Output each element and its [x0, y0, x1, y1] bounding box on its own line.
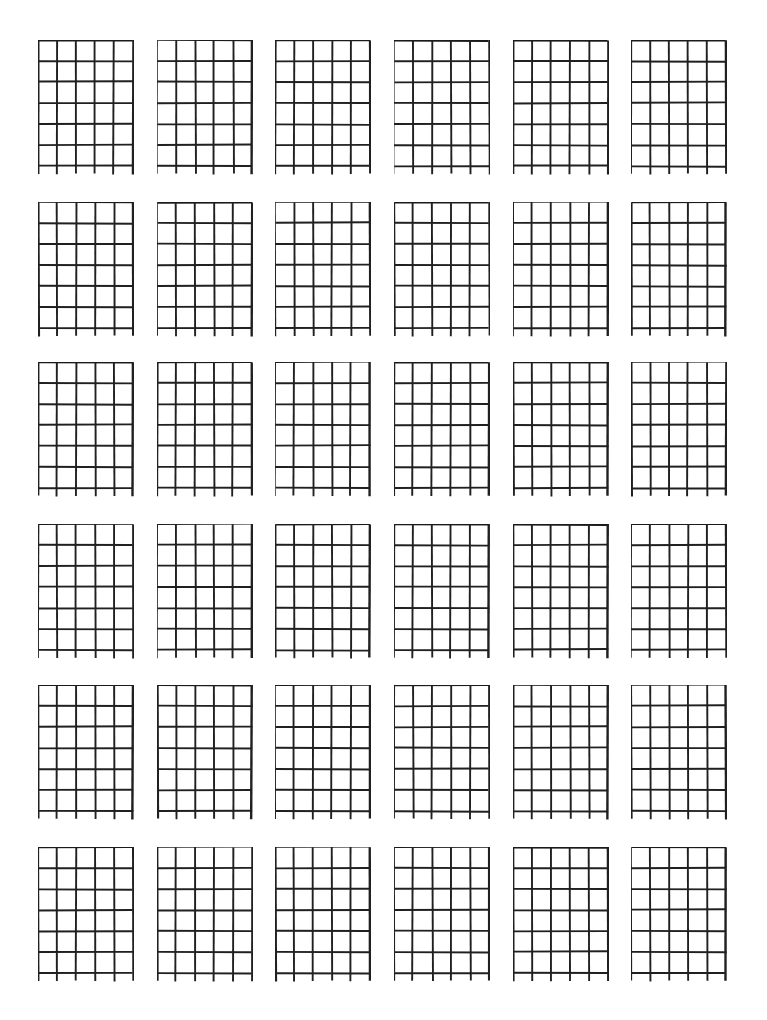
chord-diagram-canvas — [394, 685, 490, 831]
chord-diagram[interactable] — [631, 202, 727, 348]
string-line — [650, 685, 651, 819]
chord-diagram-canvas — [631, 40, 727, 186]
string-line — [196, 524, 197, 657]
chord-diagram-canvas — [157, 362, 253, 508]
string-line — [726, 524, 727, 658]
chord-diagram[interactable] — [38, 202, 134, 348]
chord-diagram-canvas — [157, 40, 253, 186]
chord-diagram[interactable] — [157, 685, 253, 831]
string-line — [332, 524, 333, 657]
chord-diagram-canvas — [38, 362, 134, 508]
chord-diagram[interactable] — [275, 847, 371, 993]
chord-diagram[interactable] — [631, 685, 727, 831]
chord-diagram[interactable] — [394, 847, 490, 993]
chord-diagram[interactable] — [513, 524, 609, 670]
chord-diagram-canvas — [631, 202, 727, 348]
chord-diagram[interactable] — [38, 847, 134, 993]
string-line — [313, 202, 314, 336]
chord-diagram-canvas — [38, 847, 134, 993]
chord-diagram-canvas — [513, 40, 609, 186]
chord-diagram-canvas — [38, 524, 134, 670]
chord-diagram[interactable] — [631, 847, 727, 993]
chord-diagram-canvas — [513, 524, 609, 670]
chord-diagram[interactable] — [157, 524, 253, 670]
chord-diagram[interactable] — [157, 202, 253, 348]
string-line — [451, 40, 452, 173]
chord-diagram[interactable] — [513, 40, 609, 186]
chord-diagram[interactable] — [513, 685, 609, 831]
string-line — [513, 362, 514, 496]
string-line — [450, 362, 451, 496]
chord-diagram[interactable] — [394, 202, 490, 348]
string-line — [331, 202, 332, 336]
chord-diagram-canvas — [157, 685, 253, 831]
chord-diagram-canvas — [513, 362, 609, 508]
chord-diagram-canvas — [157, 847, 253, 993]
string-line — [589, 685, 590, 819]
chord-diagram-canvas — [394, 847, 490, 993]
chord-diagram[interactable] — [275, 362, 371, 508]
string-line — [232, 362, 233, 497]
chord-diagram[interactable] — [38, 524, 134, 670]
chord-diagram[interactable] — [275, 685, 371, 831]
chord-diagram-canvas — [394, 362, 490, 508]
string-line — [412, 847, 413, 981]
string-line — [76, 847, 77, 980]
string-line — [133, 40, 134, 174]
string-line — [370, 202, 371, 336]
string-line — [252, 203, 253, 337]
chord-diagram[interactable] — [394, 685, 490, 831]
chord-diagram-canvas — [275, 524, 371, 670]
string-line — [432, 847, 433, 981]
string-line — [726, 685, 727, 819]
string-line — [350, 362, 351, 496]
string-line — [214, 524, 215, 657]
chord-diagram-canvas — [631, 847, 727, 993]
chord-diagram[interactable] — [38, 362, 134, 508]
string-line — [195, 362, 196, 497]
chord-diagram[interactable] — [513, 362, 609, 508]
string-line — [532, 362, 533, 496]
chord-diagram-canvas — [275, 40, 371, 186]
string-line — [369, 525, 370, 658]
chord-diagram[interactable] — [513, 847, 609, 993]
string-line — [470, 848, 471, 981]
fret-line — [38, 467, 132, 468]
chord-diagram-canvas — [38, 40, 134, 186]
chord-diagram-canvas — [394, 40, 490, 186]
chord-diagram[interactable] — [631, 524, 727, 670]
chord-diagram[interactable] — [275, 40, 371, 186]
fret-line — [157, 706, 253, 707]
chord-diagram-canvas — [394, 202, 490, 348]
chord-diagram[interactable] — [394, 40, 490, 186]
chord-diagram[interactable] — [275, 524, 371, 670]
chord-diagram[interactable] — [38, 685, 134, 831]
string-line — [114, 362, 115, 496]
string-line — [412, 525, 413, 659]
chord-diagram[interactable] — [513, 202, 609, 348]
chord-diagram[interactable] — [38, 40, 134, 186]
chord-diagram-canvas — [38, 202, 134, 348]
string-line — [293, 362, 294, 495]
chord-diagram-canvas — [631, 524, 727, 670]
chord-diagram-canvas — [275, 847, 371, 993]
chord-diagram-canvas — [275, 202, 371, 348]
chord-diagram[interactable] — [394, 524, 490, 670]
string-line — [38, 202, 39, 336]
chord-diagram-canvas — [275, 362, 371, 508]
chord-diagram[interactable] — [157, 362, 253, 508]
chord-diagram[interactable] — [275, 202, 371, 348]
chord-diagram[interactable] — [157, 40, 253, 186]
string-line — [113, 40, 114, 174]
chord-diagram-canvas — [275, 685, 371, 831]
chord-diagram[interactable] — [394, 362, 490, 508]
chord-diagram-canvas — [513, 202, 609, 348]
chord-diagram-canvas — [157, 202, 253, 348]
chord-diagram[interactable] — [631, 362, 727, 508]
chord-diagram[interactable] — [631, 40, 727, 186]
string-line — [175, 362, 176, 496]
string-line — [195, 40, 196, 174]
chord-diagram[interactable] — [157, 847, 253, 993]
chord-diagram-canvas — [631, 685, 727, 831]
string-line — [413, 686, 414, 819]
